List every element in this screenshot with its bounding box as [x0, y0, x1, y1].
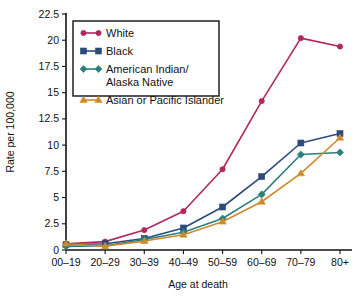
legend-label-line2: Alaska Native [106, 76, 173, 88]
y-tick-label: 15 [47, 86, 59, 98]
y-tick-label: 7.5 [44, 165, 59, 177]
x-tick-label: 70–79 [286, 256, 315, 268]
x-axis-title: Age at death [168, 278, 228, 290]
data-point [258, 198, 265, 204]
legend-marker [96, 30, 101, 35]
x-tick-label: 00–19 [51, 256, 80, 268]
x-tick-label: 40–49 [169, 256, 198, 268]
x-tick-label: 80+ [331, 256, 349, 268]
y-tick-label: 20 [47, 34, 59, 46]
series-3 [62, 149, 343, 250]
legend-label: Asian or Pacific Islander [106, 94, 224, 106]
y-tick-label: 5 [53, 191, 59, 203]
y-tick-label: 17.5 [39, 60, 60, 72]
data-point [298, 36, 303, 41]
legend-label: American Indian/ [106, 63, 189, 75]
x-tick-label: 50–59 [208, 256, 237, 268]
data-point [220, 167, 225, 172]
data-point [259, 174, 265, 180]
data-point [336, 149, 343, 156]
line-chart: Rate per 100,000 02.557.51012.51517.5202… [0, 0, 359, 297]
data-point [220, 204, 226, 210]
legend-label: White [106, 27, 134, 39]
x-tick-label: 20–29 [91, 256, 120, 268]
chart-canvas: Rate per 100,000 02.557.51012.51517.5202… [0, 0, 359, 297]
x-axis-tick-labels: 00–1920–2930–3940–4950–5960–6970–7980+ [51, 256, 349, 268]
x-tick-label: 30–39 [130, 256, 159, 268]
y-axis-title: Rate per 100,000 [4, 91, 16, 172]
series-line [66, 152, 340, 246]
legend-marker [81, 30, 86, 35]
y-tick-label: 10 [47, 139, 59, 151]
data-point [142, 227, 147, 232]
y-axis-tick-labels: 02.557.51012.51517.52022.5 [39, 8, 60, 256]
data-point [259, 98, 264, 103]
legend-label: Black [106, 45, 133, 57]
data-point [298, 140, 304, 146]
chart-legend: WhiteBlackAmerican Indian/Alaska NativeA… [73, 21, 224, 106]
x-tick-label: 60–69 [247, 256, 276, 268]
data-point [181, 209, 186, 214]
y-tick-label: 0 [53, 244, 59, 256]
y-tick-label: 2.5 [44, 217, 59, 229]
y-tick-label: 12.5 [39, 112, 60, 124]
y-tick-label: 22.5 [39, 8, 60, 20]
legend-marker [96, 48, 102, 54]
data-point [337, 44, 342, 49]
legend-marker [81, 48, 87, 54]
